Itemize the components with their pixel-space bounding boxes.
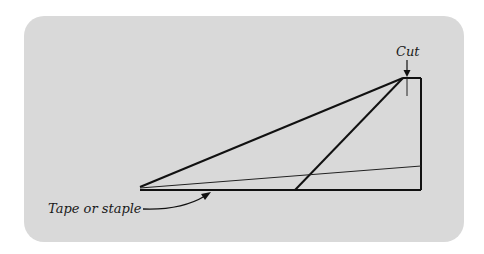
outline-shape (140, 78, 421, 190)
cut-arrow-icon (404, 60, 411, 77)
tape-arrow-icon (143, 192, 211, 209)
tape-label: Tape or staple (48, 201, 142, 216)
cut-label: Cut (396, 44, 420, 59)
thin-fold-line (140, 78, 421, 188)
folding-diagram: Cut Tape or staple (0, 0, 484, 254)
